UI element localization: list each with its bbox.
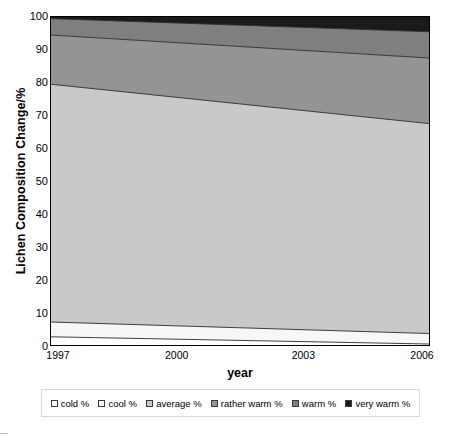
legend-label-very-warm: very warm % <box>355 398 410 409</box>
legend-item-rather-warm[interactable]: rather warm % <box>211 398 283 409</box>
y-axis-tick-70: 70 <box>36 109 48 121</box>
legend-swatch-cool <box>98 400 105 407</box>
legend-item-very-warm[interactable]: very warm % <box>345 398 410 409</box>
legend-label-average: average % <box>156 398 201 409</box>
legend-label-cool: cool % <box>108 398 137 409</box>
y-axis-tick-40: 40 <box>36 208 48 220</box>
x-axis-tick-2003: 2003 <box>292 349 315 361</box>
legend-item-cold[interactable]: cold % <box>51 398 90 409</box>
x-axis-tick-2006: 2006 <box>410 349 433 361</box>
x-axis-tick-1997: 1997 <box>46 349 69 361</box>
y-axis-tick-50: 50 <box>36 175 48 187</box>
chart-legend: cold %cool %average %rather warm %warm %… <box>41 389 420 417</box>
legend-label-warm: warm % <box>302 398 336 409</box>
page-edge-artifact <box>0 433 8 434</box>
plot-svg <box>51 17 429 345</box>
y-axis-tick-20: 20 <box>36 274 48 286</box>
x-axis-tick-2000: 2000 <box>165 349 188 361</box>
legend-label-cold: cold % <box>61 398 90 409</box>
x-axis-label: year <box>50 366 430 380</box>
y-axis-tick-10: 10 <box>36 307 48 319</box>
y-axis-tick-100: 100 <box>30 10 48 22</box>
x-axis-tick-labels: 1997200020032006 <box>0 349 453 363</box>
y-axis-tick-80: 80 <box>36 76 48 88</box>
area-band-average <box>51 84 429 333</box>
y-axis-tick-60: 60 <box>36 142 48 154</box>
y-axis-tick-30: 30 <box>36 241 48 253</box>
legend-swatch-warm <box>292 400 299 407</box>
legend-label-rather-warm: rather warm % <box>221 398 283 409</box>
legend-item-average[interactable]: average % <box>146 398 201 409</box>
legend-item-warm[interactable]: warm % <box>292 398 336 409</box>
legend-swatch-cold <box>51 400 58 407</box>
legend-swatch-average <box>146 400 153 407</box>
stacked-area-chart: Lichen Composition Change/% 010203040506… <box>0 0 453 444</box>
y-axis-tick-90: 90 <box>36 43 48 55</box>
legend-swatch-very-warm <box>345 400 352 407</box>
plot-area <box>50 16 430 346</box>
y-axis-tick-labels: 0102030405060708090100 <box>24 12 48 346</box>
legend-item-cool[interactable]: cool % <box>98 398 137 409</box>
legend-swatch-rather-warm <box>211 400 218 407</box>
